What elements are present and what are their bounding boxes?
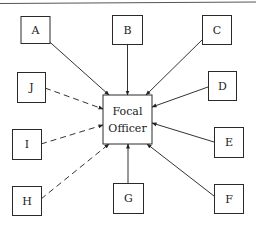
node-f: F — [215, 185, 244, 214]
edge-c-to-focal — [146, 38, 204, 95]
node-f-label: F — [225, 193, 233, 206]
focal-label-line1: Focal — [113, 105, 143, 118]
node-h-label: H — [22, 195, 32, 208]
node-c-label: C — [213, 24, 221, 37]
edge-d-to-focal — [152, 87, 208, 107]
focal-officer-box — [103, 95, 152, 144]
node-j: J — [18, 73, 46, 103]
node-j-label: J — [28, 81, 33, 94]
edge-a-to-focal — [43, 36, 109, 95]
edge-f-to-focal — [147, 144, 214, 196]
node-e: E — [215, 128, 244, 158]
top-rule-divider — [0, 2, 256, 4]
node-g-label: G — [124, 192, 133, 205]
node-i-label: I — [25, 138, 29, 151]
node-a-label: A — [31, 24, 41, 37]
node-a: A — [21, 17, 50, 44]
node-g: G — [114, 184, 144, 214]
node-e-label: E — [225, 136, 233, 149]
edge-j-to-focal — [45, 88, 103, 109]
node-b-label: B — [123, 24, 131, 37]
focal-officer-node: Focal Officer — [103, 95, 152, 144]
edge-e-to-focal — [152, 123, 214, 142]
node-d: D — [209, 72, 237, 101]
node-b: B — [113, 16, 143, 45]
focal-officer-diagram: Focal Officer A B C D E F G H I J — [0, 0, 256, 232]
focal-label-line2: Officer — [108, 122, 147, 135]
edge-h-to-focal — [41, 144, 109, 199]
node-h: H — [13, 187, 42, 216]
node-c: C — [203, 16, 232, 45]
node-d-label: D — [218, 80, 227, 93]
node-i: I — [13, 130, 42, 160]
edge-i-to-focal — [41, 125, 103, 144]
